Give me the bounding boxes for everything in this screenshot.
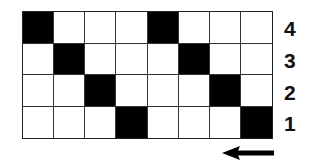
grid-cell	[241, 107, 272, 139]
grid-cell	[54, 44, 85, 76]
row-label-3: 3	[284, 50, 296, 71]
grid-cell	[85, 44, 116, 76]
grid-cell	[23, 75, 54, 107]
grid-cell	[116, 12, 147, 44]
grid-cell	[179, 75, 210, 107]
grid-cell	[116, 44, 147, 76]
grid-cell	[54, 107, 85, 139]
grid-cell	[210, 107, 241, 139]
grid-cell	[54, 12, 85, 44]
grid-cell	[179, 12, 210, 44]
grid-cell	[179, 44, 210, 76]
grid-cell	[148, 107, 179, 139]
grid-cell	[54, 75, 85, 107]
grid-cell	[85, 107, 116, 139]
grid-cell	[210, 12, 241, 44]
grid-cell	[85, 12, 116, 44]
grid-cell	[85, 75, 116, 107]
grid-cell	[210, 75, 241, 107]
grid-cell	[210, 44, 241, 76]
grid-cell	[116, 107, 147, 139]
grid-cell	[148, 12, 179, 44]
arrow-left-icon	[222, 146, 274, 160]
row-label-4: 4	[284, 18, 296, 39]
grid-cell	[23, 44, 54, 76]
grid-cell	[241, 44, 272, 76]
grid-cell	[23, 12, 54, 44]
grid-cell	[116, 75, 147, 107]
weave-grid	[22, 11, 273, 139]
grid-cell	[148, 44, 179, 76]
grid-cell	[241, 12, 272, 44]
grid-cell	[241, 75, 272, 107]
grid-cell	[23, 107, 54, 139]
row-label-1: 1	[284, 113, 296, 134]
grid-cell	[179, 107, 210, 139]
row-label-2: 2	[284, 82, 296, 103]
grid-cell	[148, 75, 179, 107]
